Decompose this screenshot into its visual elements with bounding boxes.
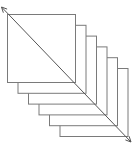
- stacked-layers-diagram: [0, 0, 138, 146]
